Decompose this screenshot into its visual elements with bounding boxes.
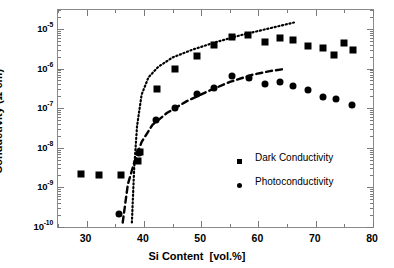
data-point-dark-conductivity [349, 47, 356, 54]
y-axis-tick-minor-right [370, 72, 373, 73]
data-point-photoconductivity [229, 72, 236, 79]
x-axis-tick-major [201, 221, 202, 227]
y-axis-tick-minor [58, 35, 61, 36]
y-axis-tick-minor-right [370, 110, 373, 111]
y-axis-tick-minor-right [370, 164, 373, 165]
y-axis-tick-minor-right [370, 114, 373, 115]
data-point-dark-conductivity [193, 52, 200, 59]
y-axis-tick-minor-right [370, 45, 373, 46]
x-axis-tick-minor-top [115, 10, 116, 13]
y-axis-tick-minor [58, 191, 61, 192]
y-axis-tick-minor-right [370, 157, 373, 158]
y-axis-tick-minor [58, 89, 61, 90]
y-axis-tick-minor-right [370, 33, 373, 34]
x-axis-tick-major-top [373, 10, 374, 16]
y-axis-tick-minor [58, 110, 61, 111]
y-axis-tick-minor-right [370, 31, 373, 32]
y-axis-tick-minor-right [370, 124, 373, 125]
data-point-photoconductivity [261, 81, 268, 88]
y-axis-tick-minor [58, 33, 61, 34]
x-axis-tick-minor [230, 224, 231, 227]
x-axis-tick-major [144, 221, 145, 227]
x-axis-tick-major-top [201, 10, 202, 16]
y-axis-tick-minor [58, 45, 61, 46]
y-axis-tick-minor [58, 129, 61, 130]
data-point-photoconductivity [245, 74, 252, 81]
y-axis-tick-minor [58, 168, 61, 169]
y-axis-tick-label: 10-7 [0, 102, 53, 113]
y-axis-tick-minor-right [370, 41, 373, 42]
data-point-dark-conductivity [277, 35, 284, 42]
data-point-photoconductivity [276, 78, 283, 85]
data-point-photoconductivity [210, 84, 217, 91]
data-point-photoconductivity [304, 87, 311, 94]
x-axis-tick-minor-top [230, 10, 231, 13]
x-axis-tick-major-top [258, 10, 259, 16]
data-point-dark-conductivity [331, 51, 338, 58]
y-axis-tick-minor-right [370, 38, 373, 39]
y-axis-tick-minor-right [370, 203, 373, 204]
y-axis-tick-minor [58, 124, 61, 125]
y-axis-tick-minor [58, 164, 61, 165]
y-axis-tick-minor-right [370, 154, 373, 155]
data-point-photoconductivity [171, 105, 178, 112]
y-axis-tick-major [58, 227, 64, 228]
y-axis-tick-minor [58, 57, 61, 58]
y-axis-tick-minor-right [370, 17, 373, 18]
data-point-photoconductivity [136, 149, 143, 156]
x-axis-tick-minor [58, 224, 59, 227]
square-marker-icon [237, 159, 242, 164]
conductivity-vs-si-content-figure: Conductivity (Ω cm)-1 Si Content[vol.%] … [0, 0, 394, 268]
y-axis-tick-minor-right [370, 152, 373, 153]
data-point-dark-conductivity [261, 39, 268, 46]
x-axis-tick-label: 70 [309, 232, 321, 244]
x-axis-title: Si Content[vol.%] [0, 250, 394, 262]
y-axis-tick-minor [58, 17, 61, 18]
photoconductivity-fit [123, 69, 283, 222]
y-axis-tick-label: 10-9 [0, 181, 53, 192]
data-point-dark-conductivity [228, 34, 235, 41]
x-axis-tick-major-top [316, 10, 317, 16]
y-axis-tick-minor [58, 194, 61, 195]
x-axis-tick-minor [287, 224, 288, 227]
y-axis-tick-major-right [367, 227, 373, 228]
x-axis-tick-label: 60 [252, 232, 264, 244]
y-axis-tick-minor [58, 160, 61, 161]
data-point-photoconductivity [332, 96, 339, 103]
data-point-photoconductivity [349, 102, 356, 109]
y-axis-tick-label: 10-5 [0, 22, 53, 33]
y-axis-tick-minor [58, 175, 61, 176]
data-point-dark-conductivity [77, 170, 84, 177]
y-axis-tick-minor-right [370, 150, 373, 151]
plot-area [57, 9, 374, 228]
y-axis-tick-minor [58, 114, 61, 115]
y-axis-tick-minor [58, 96, 61, 97]
x-axis-tick-label: 80 [366, 232, 378, 244]
y-axis-tick-minor [58, 136, 61, 137]
x-axis-tick-minor [173, 224, 174, 227]
y-axis-tick-minor-right [370, 129, 373, 130]
x-axis-tick-major-top [87, 10, 88, 16]
x-axis-tick-label: 30 [80, 232, 92, 244]
x-axis-tick-minor [115, 224, 116, 227]
y-axis-tick-minor [58, 157, 61, 158]
y-axis-tick-minor-right [370, 199, 373, 200]
data-point-dark-conductivity [289, 37, 296, 44]
y-axis-tick-minor [58, 117, 61, 118]
y-axis-tick-minor [58, 38, 61, 39]
y-axis-tick-minor [58, 203, 61, 204]
y-axis-tick-major [58, 148, 64, 149]
data-point-dark-conductivity [340, 40, 347, 47]
x-axis-tick-major [87, 221, 88, 227]
y-axis-tick-minor-right [370, 189, 373, 190]
y-axis-tick-major [58, 187, 64, 188]
y-axis-tick-minor [58, 215, 61, 216]
x-axis-title-unit: [vol.%] [203, 250, 245, 262]
data-point-photoconductivity [115, 211, 122, 218]
y-axis-tick-minor [58, 208, 61, 209]
y-axis-tick-major-right [367, 108, 373, 109]
y-axis-tick-minor-right [370, 136, 373, 137]
y-axis-tick-label: 10-6 [0, 62, 53, 73]
data-point-dark-conductivity [118, 171, 125, 178]
y-axis-tick-minor [58, 80, 61, 81]
